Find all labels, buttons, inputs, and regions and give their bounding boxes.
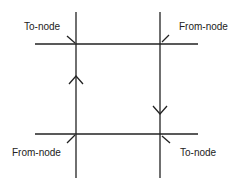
label-bottom-left: From-node xyxy=(12,147,61,158)
leader-bottom-left xyxy=(67,135,75,143)
label-bottom-right: To-node xyxy=(180,147,217,158)
leader-bottom-right xyxy=(162,136,170,143)
leader-top-left xyxy=(67,36,75,43)
label-top-left: To-node xyxy=(24,21,61,32)
label-top-right: From-node xyxy=(179,21,228,32)
node-diagram: To-node From-node From-node To-node xyxy=(0,0,240,185)
leader-top-right xyxy=(162,35,169,42)
